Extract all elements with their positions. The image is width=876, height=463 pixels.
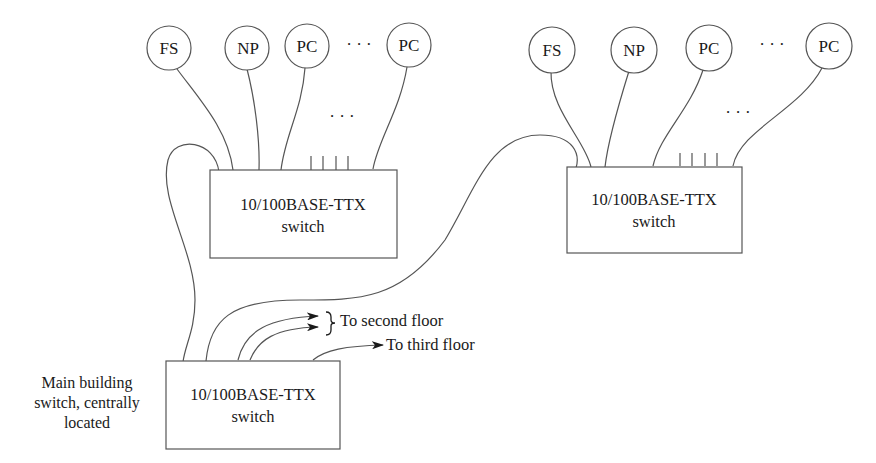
label-third-floor: To third floor: [386, 335, 475, 355]
ellipsis-left-ports: · · ·: [329, 107, 354, 126]
label-second-floor: To second floor: [340, 311, 443, 331]
node-right-pc1-label: PC: [699, 39, 720, 58]
main-switch-description-line3: located: [12, 413, 162, 433]
switch-main-line2: switch: [231, 407, 275, 426]
switch-right: [567, 167, 742, 253]
cable-second-floor-2: [250, 327, 318, 360]
ellipsis-left-nodes: · · ·: [346, 35, 371, 54]
main-switch-description-line1: Main building: [12, 373, 162, 393]
switch-left: [210, 170, 397, 258]
switch-left-line1: 10/100BASE-TTX: [240, 195, 366, 214]
port-stubs-left: [311, 156, 348, 170]
node-left-np-label: NP: [237, 39, 259, 58]
brace-second-floor: [326, 312, 335, 335]
cable-right-fs: [551, 71, 591, 167]
node-left-pc2-label: PC: [399, 36, 420, 55]
switch-right-line2: switch: [632, 212, 676, 231]
ellipsis-right-ports: · · ·: [725, 103, 750, 122]
cable-right-np: [605, 71, 629, 167]
switch-left-line2: switch: [281, 217, 325, 236]
cable-left-pc2: [373, 67, 407, 169]
cable-second-floor-1: [238, 316, 318, 360]
node-left-fs-label: FS: [160, 39, 179, 58]
node-right-np-label: NP: [623, 41, 645, 60]
cable-right-pc1: [653, 70, 703, 166]
switch-main-line1: 10/100BASE-TTX: [190, 385, 316, 404]
main-switch-description-line2: switch, centrally: [12, 393, 162, 413]
switch-right-line1: 10/100BASE-TTX: [591, 190, 717, 209]
network-diagram: FS NP PC PC FS NP PC PC · · · · · · · · …: [0, 0, 876, 463]
main-switch-description: Main building switch, centrally located: [12, 373, 162, 433]
cable-left-np: [247, 69, 259, 170]
node-left-pc1-label: PC: [297, 37, 318, 56]
node-right-fs-label: FS: [543, 41, 562, 60]
cable-third-floor: [313, 345, 383, 360]
cable-left-pc1: [281, 68, 305, 170]
cable-left-fs: [177, 69, 233, 170]
node-right-pc2-label: PC: [819, 37, 840, 56]
port-stubs-right: [680, 153, 717, 166]
switch-main: [166, 361, 340, 449]
ellipsis-right-nodes: · · ·: [759, 35, 784, 54]
